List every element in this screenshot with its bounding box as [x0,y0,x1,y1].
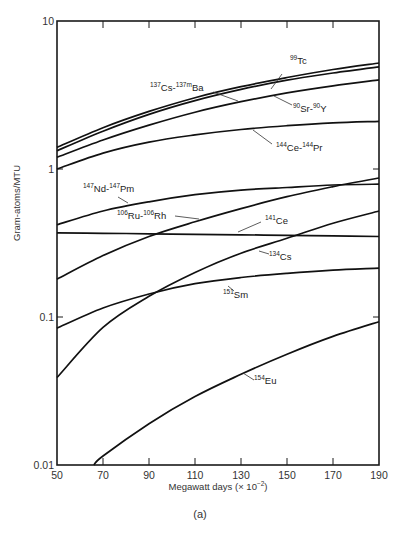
x-tick-label: 90 [143,469,155,481]
x-tick-label: 170 [324,469,342,481]
curve-label-141ce: 141Ce [265,214,288,226]
x-tick-label: 190 [370,469,388,481]
curve-99tc [57,63,379,147]
leader-line [175,216,199,219]
leader-line [259,251,269,254]
curve-label-151sm: 151Sm [223,288,248,300]
x-tick-label: 110 [187,469,204,481]
curve-label-137cs-137mba: 137Cs-137mBa [150,81,204,93]
y-tick-label: 1 [48,163,54,175]
curve-labels: 99Tc137Cs-137mBa90Sr-90Y144Ce-144Pr147Nd… [83,54,327,386]
leader-line [238,222,261,232]
curve-154eu [94,322,379,465]
curve-label-90sr-90y: 90Sr-90Y [293,102,327,114]
leader-line [274,96,292,105]
leader-line [243,373,254,380]
plot-frame [57,21,379,465]
leader-line [118,197,128,203]
curve-label-144ce-144pr: 144Ce-144Pr [276,141,323,153]
leader-line [253,130,272,144]
curve-137cs-137mba [57,67,379,151]
curve-label-106ru-106rh: 106Ru-106Rh [117,209,166,221]
plot-border [57,21,379,465]
x-axis-title: Megawatt days (× 10−2) [168,480,267,492]
x-tick-label: 150 [278,469,296,481]
curve-151sm [57,268,379,328]
curve-label-99tc: 99Tc [290,54,307,66]
x-tick-label: 70 [97,469,109,481]
y-tick-label: 0.01 [34,459,55,471]
y-axis-title: Gram-atoms/MTU [11,165,22,241]
y-tick-label: 10 [42,15,54,27]
curve-144ce-144pr [57,121,379,169]
burnup-chart: 5070901101301501701900.010.1110 99Tc137C… [0,0,400,533]
curve-label-147nd-147pm: 147Nd-147Pm [83,182,134,194]
curve-141ce [57,233,379,237]
x-tick-label: 130 [232,469,250,481]
curve-label-134cs: 134Cs [269,250,292,262]
curve-label-154eu: 154Eu [254,374,276,386]
y-tick-label: 0.1 [39,311,54,323]
figure-caption: (a) [0,508,400,520]
data-curves [57,63,379,465]
